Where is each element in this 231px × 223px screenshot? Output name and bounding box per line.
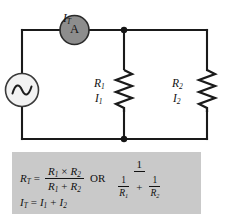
fraction-denominator: R1+R2 bbox=[45, 179, 84, 192]
fraction-numerator: R1×R2 bbox=[45, 165, 84, 179]
fraction-product-over-sum: R1×R2 R1+R2 bbox=[45, 165, 84, 192]
rt-lhs: RT bbox=[20, 172, 31, 184]
label-total-current: IT bbox=[63, 13, 71, 25]
label-current-i1: I1 bbox=[95, 93, 103, 105]
equation-total-current: IT=I1+I2 bbox=[20, 196, 67, 208]
formula-box: RT = R1×R2 R1+R2 OR 1 1 R1 bbox=[12, 152, 201, 214]
junction-dot-bottom bbox=[121, 136, 127, 142]
junction-dot-top bbox=[121, 27, 127, 33]
reciprocal-denominator: 1 R1 + 1 R2 bbox=[111, 172, 167, 198]
fraction-one-over-r1: 1 R1 bbox=[116, 175, 131, 198]
fraction-one-over-r2: 1 R2 bbox=[147, 175, 162, 198]
resistor-r2-symbol bbox=[199, 70, 215, 112]
fraction-reciprocal-sum: 1 1 R1 + 1 R2 bbox=[111, 158, 167, 198]
equation-total-resistance: RT = R1×R2 R1+R2 OR 1 1 R1 bbox=[20, 158, 169, 198]
label-it-text: IT bbox=[63, 12, 71, 24]
resistor-r1-symbol bbox=[116, 70, 132, 112]
circuit-figure: A IT R1 I1 R2 I2 RT = R1×R2 R1+R2 bbox=[0, 0, 231, 223]
label-current-i2: I2 bbox=[173, 93, 181, 105]
or-word: OR bbox=[86, 172, 109, 184]
ammeter-letter: A bbox=[70, 22, 79, 36]
reciprocal-numerator: 1 bbox=[134, 158, 146, 172]
label-resistor-r1: R1 bbox=[94, 78, 105, 90]
label-it-sub: T bbox=[67, 17, 71, 26]
rt-equals: = bbox=[31, 172, 43, 184]
label-resistor-r2: R2 bbox=[172, 78, 183, 90]
